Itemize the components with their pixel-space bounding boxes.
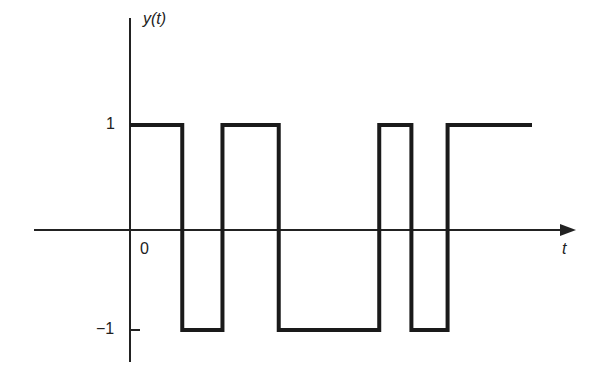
tick-label-pos-one: 1	[106, 115, 115, 133]
tick-label-neg-one: −1	[96, 320, 114, 338]
x-axis-arrow-icon	[560, 224, 576, 236]
square-waveform	[130, 125, 532, 330]
origin-label: 0	[140, 240, 149, 258]
x-axis-label: t	[562, 240, 566, 258]
y-axis-label: y(t)	[143, 10, 166, 28]
waveform-diagram: y(t) t 0 1 −1	[0, 0, 604, 384]
plot-canvas	[0, 0, 604, 384]
